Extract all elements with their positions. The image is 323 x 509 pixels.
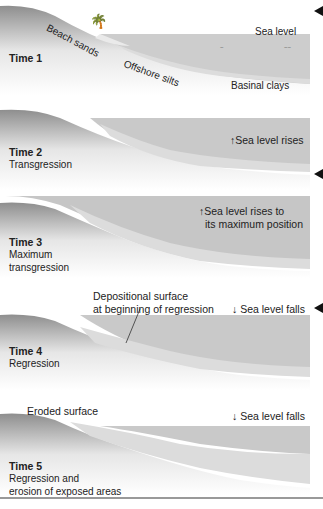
cross-section-time-2 <box>0 100 312 195</box>
subtitle-line-2: transgression <box>9 262 69 274</box>
bottom-divider <box>0 497 323 499</box>
arrow-down-icon: ↓ <box>232 303 237 315</box>
marker-arrow <box>314 169 323 179</box>
sea-level-label: Sea level <box>255 26 296 38</box>
subtitle: Transgression <box>9 159 72 171</box>
time-label: Time 3 <box>9 236 42 248</box>
time-label: Time 4 <box>9 345 42 357</box>
callout-line-2: at beginning of regression <box>93 303 214 315</box>
time-label: Time 5 <box>9 460 42 472</box>
panel-time-4: Depositional surface at beginning of reg… <box>0 285 312 390</box>
bird-icon: ~~ <box>284 44 291 50</box>
subtitle: Regression <box>9 358 60 370</box>
time-label: Time 2 <box>9 146 42 158</box>
time-label: Time 1 <box>9 52 42 64</box>
callout: Eroded surface <box>27 405 98 417</box>
arrow-down-icon: ↓ <box>232 410 237 422</box>
panel-time-1: 🌴 ~ ~~ Sea level Beach sands Offshore si… <box>0 0 312 95</box>
panel-time-2: ↑Sea level rises Time 2 Transgression <box>0 100 312 195</box>
marker-arrow <box>314 6 323 16</box>
subtitle-line-1: Maximum <box>9 249 52 261</box>
marker-arrow <box>314 303 323 313</box>
palm-tree-icon: 🌴 <box>90 13 107 29</box>
sea-note: ↓ Sea level falls <box>232 303 305 315</box>
sea-note-line-2: its maximum position <box>205 218 303 230</box>
subtitle-line-1: Regression and <box>9 473 79 485</box>
panel-time-3: ↑Sea level rises to its maximum position… <box>0 193 312 288</box>
bird-icon: ~ <box>220 44 224 50</box>
sea-note: ↑Sea level rises <box>230 134 304 146</box>
sea-note: ↑Sea level rises to <box>199 205 284 217</box>
callout-line-1: Depositional surface <box>93 290 188 302</box>
panel-time-5: Eroded surface ↓ Sea level falls Time 5 … <box>0 392 312 497</box>
sea-note: ↓ Sea level falls <box>232 410 305 422</box>
basinal-clays-label: Basinal clays <box>231 80 289 92</box>
